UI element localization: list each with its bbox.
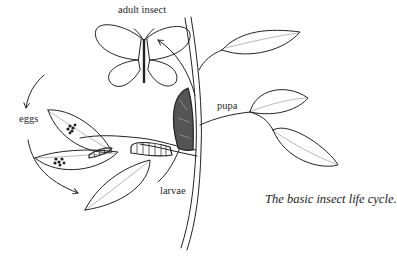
label-eggs: eggs — [19, 113, 38, 124]
caterpillar-large-icon — [131, 143, 172, 157]
arrow-adult-to-eggs — [26, 75, 44, 108]
arrow-eggs-to-larvae — [28, 140, 78, 193]
leaf-bottom-left — [85, 160, 150, 210]
label-adult-insect: adult insect — [118, 4, 166, 15]
label-pupa: pupa — [217, 100, 237, 111]
leaf-mid-right — [250, 90, 308, 114]
eggs-cluster-lower — [53, 157, 65, 166]
pupa-icon — [173, 88, 193, 151]
eggs-cluster-upper — [66, 124, 76, 135]
label-larvae: larvae — [160, 185, 186, 196]
butterfly-icon — [95, 25, 190, 87]
leaf-top-left — [48, 110, 112, 153]
figure-caption: The basic insect life cycle. — [265, 192, 397, 207]
leaf-upper-right — [222, 30, 300, 54]
leaf-lower-right — [273, 128, 338, 166]
